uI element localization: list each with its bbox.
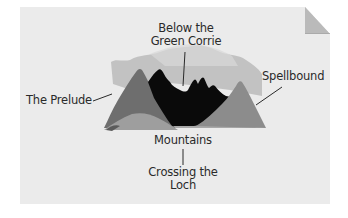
label-mountains: Mountains [146, 134, 220, 147]
label-the-prelude: The Prelude [26, 94, 92, 107]
pointer-left [93, 94, 112, 101]
label-bottom-line2: Loch [140, 179, 226, 192]
label-spellbound: Spellbound [262, 70, 324, 83]
label-top-line2: Green Corrie [146, 35, 226, 48]
canvas: Below the Green Corrie The Prelude Spell… [0, 0, 348, 218]
label-below-the-green-corrie: Below the Green Corrie [146, 22, 226, 48]
label-crossing-the-loch: Crossing the Loch [140, 166, 226, 192]
